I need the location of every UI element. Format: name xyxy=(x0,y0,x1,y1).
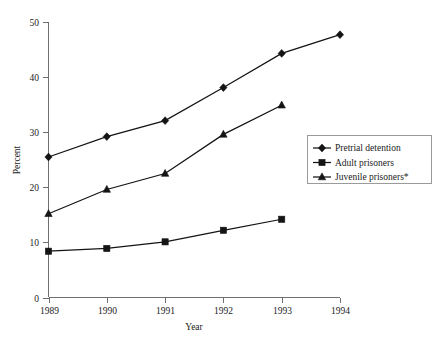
line-chart: 01020304050 Percent 19891990199119921993… xyxy=(0,0,437,348)
y-axis-tick-labels: 01020304050 xyxy=(30,18,40,304)
data-point xyxy=(45,153,52,161)
legend-label: Pretrial detention xyxy=(335,143,401,153)
data-point xyxy=(220,227,226,233)
x-tick-label: 1993 xyxy=(273,306,292,316)
y-tick-label: 20 xyxy=(30,183,40,193)
y-axis: 01020304050 Percent xyxy=(12,18,49,304)
data-point xyxy=(161,169,168,176)
y-tick-label: 0 xyxy=(34,294,39,304)
x-axis-ticks xyxy=(50,298,341,304)
series-line xyxy=(49,219,282,251)
data-point xyxy=(162,239,168,245)
x-tick-label: 1991 xyxy=(156,306,175,316)
y-axis-ticks xyxy=(43,23,49,299)
data-point xyxy=(45,248,51,254)
series-adult-prisoners xyxy=(45,216,284,254)
data-point xyxy=(278,50,285,58)
legend: Pretrial detentionAdult prisonersJuvenil… xyxy=(308,136,432,184)
legend-label: Adult prisoners xyxy=(335,158,394,168)
data-point xyxy=(279,216,285,222)
data-point xyxy=(220,84,227,92)
x-tick-label: 1994 xyxy=(331,306,350,316)
x-tick-label: 1992 xyxy=(214,306,233,316)
legend-marker-square xyxy=(319,159,325,165)
x-axis-title: Year xyxy=(185,322,203,332)
chart-canvas: 01020304050 Percent 19891990199119921993… xyxy=(0,0,437,348)
series-pretrial-detention xyxy=(45,31,344,161)
x-tick-label: 1989 xyxy=(40,306,59,316)
series-group xyxy=(45,31,344,255)
data-point xyxy=(278,101,285,108)
y-tick-label: 30 xyxy=(30,128,40,138)
y-tick-label: 50 xyxy=(30,18,40,28)
y-tick-label: 40 xyxy=(30,73,40,83)
data-point xyxy=(104,245,110,251)
x-axis-tick-labels: 198919901991199219931994 xyxy=(40,306,350,316)
legend-label: Juvenile prisoners* xyxy=(335,172,409,182)
data-point xyxy=(336,31,343,39)
x-axis: 198919901991199219931994 Year xyxy=(40,298,350,333)
data-point xyxy=(162,117,169,125)
data-point xyxy=(103,133,110,141)
x-tick-label: 1990 xyxy=(98,306,117,316)
y-axis-title: Percent xyxy=(12,145,22,174)
series-line xyxy=(49,35,341,157)
y-tick-label: 10 xyxy=(30,238,40,248)
